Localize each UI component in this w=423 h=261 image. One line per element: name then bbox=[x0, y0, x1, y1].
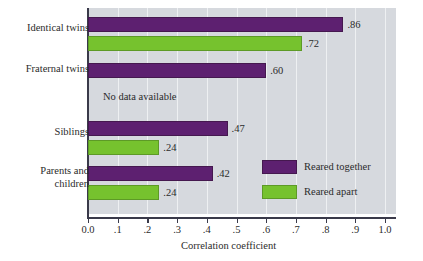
no-data-annotation: No data available bbox=[103, 91, 176, 102]
x-tick bbox=[207, 218, 208, 223]
x-tick-label: .1 bbox=[114, 224, 122, 235]
bar-reared-together bbox=[88, 121, 228, 136]
x-tick bbox=[237, 218, 238, 223]
category-label: Fraternal twins bbox=[26, 63, 89, 76]
legend-item-reared-apart: Reared apart bbox=[262, 183, 371, 200]
legend: Reared together Reared apart bbox=[262, 158, 371, 208]
bar-value-label: .42 bbox=[217, 166, 230, 181]
legend-label-reared-apart: Reared apart bbox=[304, 186, 357, 197]
category-label: Identical twins bbox=[27, 22, 89, 35]
x-tick-label: .6 bbox=[262, 224, 270, 235]
x-tick-label: .7 bbox=[292, 224, 300, 235]
bar-value-label: .24 bbox=[163, 185, 176, 200]
legend-label-reared-together: Reared together bbox=[304, 161, 371, 172]
x-tick bbox=[355, 218, 356, 223]
legend-item-reared-together: Reared together bbox=[262, 158, 371, 175]
bar-reared-apart bbox=[88, 36, 302, 51]
correlation-coefficient-bar-chart: .86.72.60.47.24.42.24 Identical twinsFra… bbox=[0, 0, 423, 261]
x-tick bbox=[147, 218, 148, 223]
bar-reared-together bbox=[88, 63, 266, 78]
x-tick-label: .2 bbox=[143, 224, 151, 235]
x-tick-label: .3 bbox=[173, 224, 181, 235]
bar-value-label: .60 bbox=[270, 63, 283, 78]
x-tick bbox=[326, 218, 327, 223]
bar-value-label: .24 bbox=[163, 140, 176, 155]
x-tick bbox=[118, 218, 119, 223]
bar-reared-together bbox=[88, 166, 213, 181]
x-tick bbox=[177, 218, 178, 223]
x-tick-label: .9 bbox=[351, 224, 359, 235]
bar-reared-apart bbox=[88, 140, 159, 155]
gridline bbox=[385, 8, 386, 214]
category-label: Siblings bbox=[55, 126, 89, 139]
bar-value-label: .72 bbox=[306, 36, 319, 51]
category-label: Parents and children bbox=[40, 165, 89, 190]
bar-value-label: .47 bbox=[232, 121, 245, 136]
x-axis-title: Correlation coefficient bbox=[0, 240, 423, 251]
x-tick-label: .8 bbox=[322, 224, 330, 235]
x-axis-title-text: Correlation coefficient bbox=[181, 240, 276, 251]
x-tick bbox=[385, 218, 386, 223]
x-tick bbox=[266, 218, 267, 223]
legend-swatch-reared-together bbox=[262, 160, 297, 174]
legend-swatch-reared-apart bbox=[262, 185, 297, 199]
x-tick-label: 0.0 bbox=[81, 224, 94, 235]
bar-reared-together bbox=[88, 17, 343, 32]
bar-value-label: .86 bbox=[347, 17, 360, 32]
x-tick-label: 1.0 bbox=[378, 224, 391, 235]
x-tick-label: .4 bbox=[203, 224, 211, 235]
bar-reared-apart bbox=[88, 185, 159, 200]
x-tick bbox=[296, 218, 297, 223]
x-tick-label: .5 bbox=[233, 224, 241, 235]
x-axis-line bbox=[87, 217, 396, 219]
x-tick bbox=[88, 218, 89, 223]
